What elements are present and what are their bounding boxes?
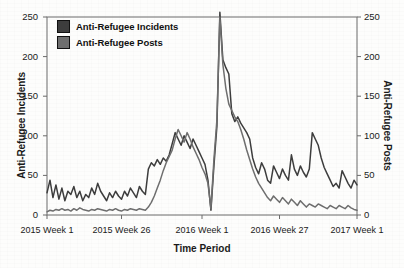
legend-label-posts: Anti-Refugee Posts xyxy=(76,37,163,48)
chart-figure: Anti-Refugee Incidents Anti-Refugee Post… xyxy=(0,0,404,268)
legend-swatch-incidents xyxy=(57,20,70,33)
legend-label-incidents: Anti-Refugee Incidents xyxy=(76,21,178,32)
chart-legend: Anti-Refugee Incidents Anti-Refugee Post… xyxy=(57,20,178,49)
legend-item-incidents: Anti-Refugee Incidents xyxy=(57,20,178,33)
legend-item-posts: Anti-Refugee Posts xyxy=(57,36,178,49)
legend-swatch-posts xyxy=(57,36,70,49)
